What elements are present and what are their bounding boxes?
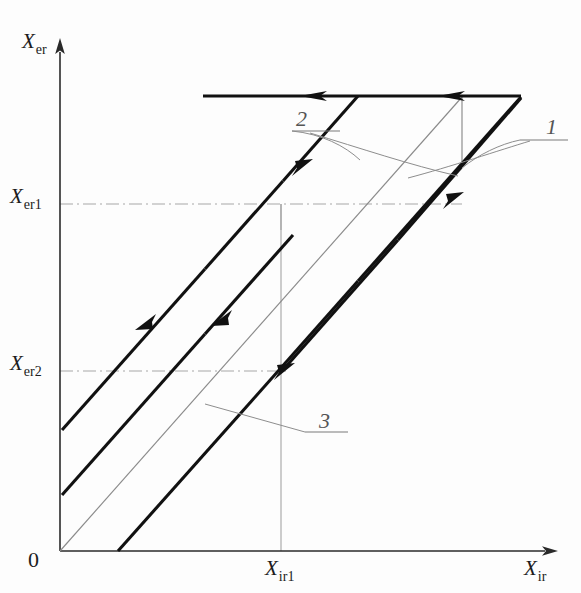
branch-right-upper [398, 98, 521, 240]
callout-label-2: 2 [296, 106, 307, 131]
x-axis-sub: ir [538, 569, 547, 584]
y-axis-label: Xer [21, 29, 47, 57]
callout-label-1: 1 [546, 114, 557, 139]
y-axis-sub: er [36, 42, 47, 57]
xir1-sub: ir1 [279, 569, 295, 584]
thick-branches [62, 96, 521, 551]
x-axis-var: X [523, 556, 538, 580]
labels-group: Xer Xir 0 Xer1 Xer2 Xir1 2 1 3 [9, 29, 557, 584]
thin-diagonal-branch-3 [60, 97, 462, 551]
x-axis-label: Xir [523, 556, 547, 584]
branch-left-lower [62, 334, 205, 495]
branch-right-lower [282, 240, 398, 371]
y-axis-var: X [21, 29, 36, 53]
callout-leaders [205, 131, 568, 432]
xer1-tick-label: Xer1 [9, 184, 42, 212]
xer2-sub: er2 [24, 364, 42, 379]
xer2-var: X [9, 351, 24, 375]
arrow-up-right-3-icon [443, 192, 464, 209]
branch-third-lower [118, 414, 240, 551]
y-axis-arrow-icon [55, 38, 65, 54]
origin-label: 0 [28, 547, 39, 572]
arrow-down-left-2-icon [211, 310, 232, 326]
reference-lines [60, 204, 462, 551]
diagram-canvas: Xer Xir 0 Xer1 Xer2 Xir1 2 1 3 [0, 0, 581, 593]
branch-second-mid [205, 181, 283, 269]
callout-3-leader [205, 404, 305, 432]
callout-2-leader-b [310, 133, 458, 176]
branch-arrowheads [135, 91, 465, 380]
branch-left-upper [205, 235, 293, 334]
xer1-var: X [9, 184, 24, 208]
callout-label-3: 3 [318, 408, 330, 433]
xer1-sub: er1 [24, 197, 42, 212]
xir1-tick-label: Xir1 [264, 556, 294, 584]
branch-second-upper [283, 96, 358, 181]
branch-second-lower [62, 269, 205, 430]
xer2-tick-label: Xer2 [9, 351, 42, 379]
xir1-var: X [264, 556, 279, 580]
technical-diagram: Xer Xir 0 Xer1 Xer2 Xir1 2 1 3 [0, 0, 581, 593]
thin-branches [60, 97, 462, 551]
branch-third-mid [240, 281, 358, 414]
